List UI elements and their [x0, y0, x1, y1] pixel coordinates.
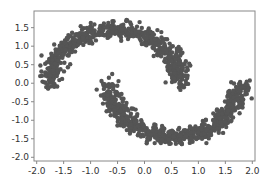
data-point — [106, 97, 110, 101]
data-point — [87, 41, 91, 45]
data-point — [39, 69, 43, 73]
data-point — [172, 64, 176, 68]
data-point — [150, 31, 154, 35]
data-point — [126, 116, 130, 120]
data-point — [153, 123, 157, 127]
data-point — [111, 19, 115, 23]
scatter-chart: -2.0-1.5-1.0-0.50.00.51.01.52.0 1.51.00.… — [0, 0, 271, 182]
data-point — [57, 51, 61, 55]
data-point — [118, 109, 122, 113]
data-point — [121, 124, 125, 128]
data-point — [153, 37, 157, 41]
data-point — [157, 129, 161, 133]
data-point — [81, 31, 85, 35]
data-point — [220, 123, 224, 127]
data-point — [112, 98, 116, 102]
data-point — [50, 58, 54, 62]
data-point — [183, 128, 187, 132]
data-point — [149, 132, 153, 136]
data-point — [117, 117, 121, 121]
data-point — [69, 34, 73, 38]
data-point — [153, 135, 157, 139]
x-tick-label: -0.5 — [109, 166, 127, 176]
data-point — [207, 132, 211, 136]
data-point — [184, 59, 188, 63]
data-point — [200, 137, 204, 141]
y-tick-label: -1.0 — [11, 115, 29, 125]
data-point — [217, 112, 221, 116]
data-point — [126, 31, 130, 35]
data-point — [167, 55, 171, 59]
data-point — [97, 27, 101, 31]
data-point — [190, 140, 194, 144]
data-point — [211, 111, 215, 115]
data-point — [172, 71, 176, 75]
data-point — [126, 26, 130, 30]
data-point — [223, 116, 227, 120]
data-point — [229, 114, 233, 118]
data-point — [170, 130, 174, 134]
y-axis-ticks: 1.51.00.50.0-0.5-1.0-1.5-2.0 — [11, 23, 34, 163]
y-tick-label: -1.5 — [11, 134, 29, 144]
data-point — [128, 131, 132, 135]
data-point — [105, 93, 109, 97]
data-point — [53, 62, 57, 66]
data-point — [51, 68, 55, 72]
data-point — [122, 112, 126, 116]
data-point — [95, 87, 99, 91]
data-point — [167, 137, 171, 141]
data-point — [231, 88, 235, 92]
data-point — [124, 104, 128, 108]
data-point — [184, 134, 188, 138]
data-point — [112, 108, 116, 112]
data-point — [180, 65, 184, 69]
data-points — [38, 18, 254, 147]
data-point — [189, 130, 193, 134]
data-point — [203, 122, 207, 126]
y-tick-label: 1.5 — [15, 23, 29, 33]
data-point — [87, 29, 91, 33]
data-point — [75, 33, 79, 37]
data-point — [137, 20, 141, 24]
data-point — [171, 134, 175, 138]
data-point — [131, 107, 135, 111]
data-point — [185, 65, 189, 69]
data-point — [152, 46, 156, 50]
data-point — [79, 24, 83, 28]
data-point — [115, 123, 119, 127]
data-point — [140, 26, 144, 30]
data-point — [170, 50, 174, 54]
data-point — [207, 136, 211, 140]
data-point — [145, 136, 149, 140]
data-point — [179, 51, 183, 55]
data-point — [61, 53, 65, 57]
data-point — [135, 119, 139, 123]
data-point — [58, 44, 62, 48]
data-point — [163, 60, 167, 64]
data-point — [45, 60, 49, 64]
data-point — [159, 30, 163, 34]
data-point — [125, 128, 129, 132]
data-point — [176, 67, 180, 71]
data-point — [38, 63, 42, 67]
data-point — [73, 38, 77, 42]
data-point — [226, 90, 230, 94]
data-point — [67, 51, 71, 55]
data-point — [224, 125, 228, 129]
data-point — [107, 76, 111, 80]
data-point — [183, 74, 187, 78]
data-point — [57, 78, 61, 82]
data-point — [133, 31, 137, 35]
data-point — [199, 126, 203, 130]
data-point — [58, 67, 62, 71]
y-tick-label: -0.5 — [11, 97, 29, 107]
y-tick-label: -2.0 — [11, 152, 29, 162]
x-tick-label: -2.0 — [28, 166, 46, 176]
data-point — [231, 108, 235, 112]
data-point — [99, 93, 103, 97]
data-point — [56, 58, 60, 62]
data-point — [167, 142, 171, 146]
data-point — [52, 85, 56, 89]
data-point — [228, 103, 232, 107]
data-point — [139, 118, 143, 122]
